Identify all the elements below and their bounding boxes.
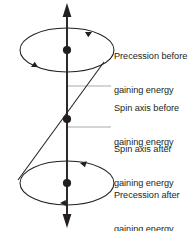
tilted-spin-axis [18,62,104,180]
diagram-page: Precession before gaining energy Spin ax… [0,0,192,231]
label-spin-axis-before-line1: Spin axis before [114,103,179,114]
label-spin-axis-after-line1: Spin axis after [114,144,174,155]
dot-bottom-center [63,179,71,187]
dot-middle-center [63,115,71,123]
vertical-axis-arrow-up-icon [63,3,72,17]
vertical-axis-arrow-down-icon [63,214,72,228]
precession-arrow-top-left-icon [30,61,38,69]
label-precession-after: Precession after gaining energy [114,168,180,231]
label-precession-before-line1: Precession before [114,51,187,62]
label-precession-after-line1: Precession after [114,190,180,201]
dot-top-center [63,46,71,54]
label-precession-after-line2: gaining energy [114,224,180,231]
